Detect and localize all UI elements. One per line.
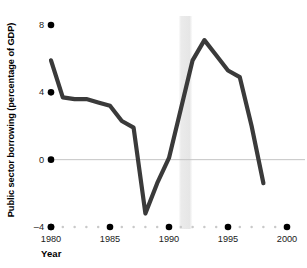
x-tick-label: 1995 [218,234,238,244]
x-tick-label: 2000 [277,234,297,244]
x-tick-label: 1990 [159,234,179,244]
chart-container: Public sector borrowing (percentage of G… [0,0,307,268]
y-axis-tick-dots [48,22,55,231]
plot-area [0,0,307,268]
x-axis-major-tick-dots [48,224,291,231]
x-tick-label: 1980 [41,234,61,244]
y-tick-label: 0 [39,155,44,165]
y-tick-label: 4 [39,87,44,97]
y-tick-label: 8 [39,20,44,30]
y-tick-label: –4 [34,222,44,232]
data-line-series [51,40,263,213]
shaded-band [178,16,192,229]
x-tick-label: 1985 [100,234,120,244]
